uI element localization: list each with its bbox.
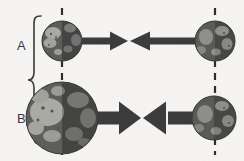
planet-a-right — [195, 21, 235, 61]
row-label-a: A — [17, 39, 26, 52]
row-label-b: B — [17, 112, 26, 125]
planet-b-left — [26, 82, 98, 154]
planet-a-left — [42, 21, 82, 61]
figure-canvas — [0, 0, 244, 161]
gravity-comparison-figure: A B — [0, 0, 244, 161]
planet-b-right — [192, 96, 236, 140]
